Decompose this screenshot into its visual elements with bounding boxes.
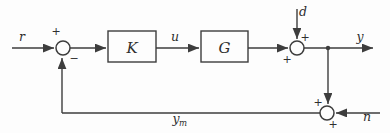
signal-label-disturbance: d xyxy=(299,4,307,19)
block-diagram-svg: K G + − + + + + r u d y n y m xyxy=(0,0,390,133)
error-sum-sign-positive: + xyxy=(51,25,60,38)
block-controller-label: K xyxy=(125,39,138,57)
error-sum-sign-negative: − xyxy=(69,52,78,65)
signal-label-measured-output-subscript: m xyxy=(179,118,187,128)
signal-label-output: y xyxy=(355,29,364,44)
disturbance-sum-sign-top: + xyxy=(300,31,309,44)
block-plant-label: G xyxy=(219,39,231,57)
output-tap-node xyxy=(326,46,330,50)
summing-junction-error xyxy=(56,41,70,55)
signal-label-noise: n xyxy=(363,109,371,124)
block-diagram-canvas: K G + − + + + + r u d y n y m xyxy=(0,0,390,133)
signal-label-control: u xyxy=(171,29,179,44)
signal-label-reference: r xyxy=(19,29,26,44)
disturbance-sum-sign-bottom: + xyxy=(282,53,291,66)
noise-sum-sign-top: + xyxy=(313,96,322,109)
noise-sum-sign-bottom: + xyxy=(328,118,337,131)
